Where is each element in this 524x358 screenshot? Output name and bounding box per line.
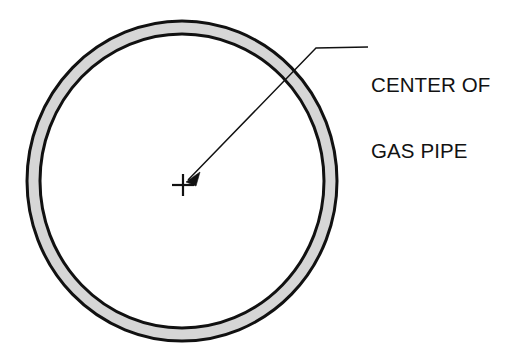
callout-label-line-2: GAS PIPE: [371, 140, 521, 162]
callout-label: CENTER OF GAS PIPE: [371, 30, 521, 206]
diagram-canvas: CENTER OF GAS PIPE: [0, 0, 524, 358]
callout-label-line-1: CENTER OF: [371, 74, 521, 96]
